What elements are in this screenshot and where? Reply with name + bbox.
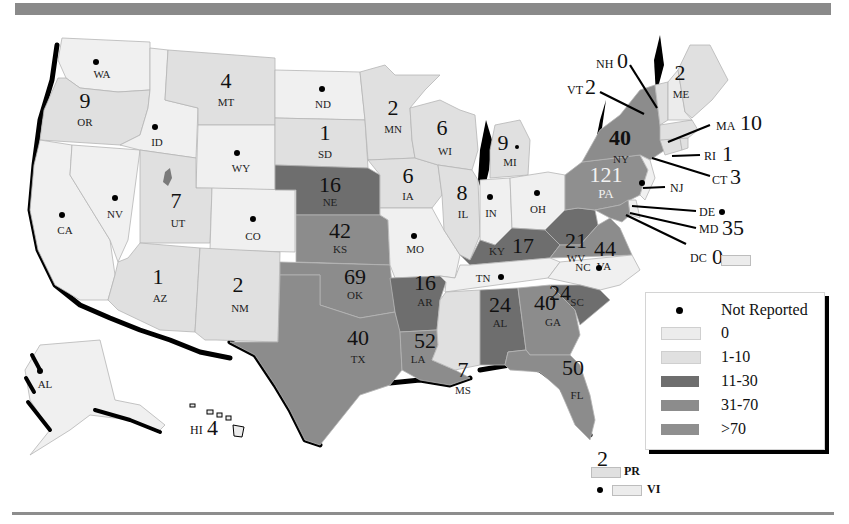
legend-swatch-zero (661, 327, 701, 340)
state-AK[interactable] (25, 340, 165, 455)
svg-text:1: 1 (153, 264, 164, 289)
legend-row-1-10: 1-10 (646, 346, 824, 368)
svg-text:40: 40 (347, 325, 369, 350)
svg-text:AZ: AZ (153, 292, 168, 304)
legend: Not Reported 0 1-10 11-30 31-70 >70 (645, 292, 825, 450)
svg-text:VT: VT (567, 83, 584, 97)
svg-text:16: 16 (414, 270, 436, 295)
svg-text:50: 50 (562, 355, 584, 380)
svg-text:NC: NC (575, 261, 590, 273)
svg-text:IA: IA (402, 190, 414, 202)
svg-text:42: 42 (329, 218, 351, 243)
vi-swatch[interactable] (612, 485, 642, 496)
svg-text:6: 6 (403, 163, 414, 188)
svg-text:OH: OH (530, 203, 546, 215)
legend-swatch-31-70 (661, 400, 699, 411)
svg-text:35: 35 (722, 215, 744, 240)
svg-text:CA: CA (57, 224, 72, 236)
state-ND[interactable] (275, 70, 365, 120)
svg-text:KS: KS (333, 243, 347, 255)
svg-text:121: 121 (590, 162, 623, 187)
legend-row-11-30: 11-30 (646, 370, 824, 392)
svg-text:TN: TN (476, 272, 491, 284)
svg-text:2: 2 (233, 272, 244, 297)
svg-text:69: 69 (344, 264, 366, 289)
legend-row-31-70: 31-70 (646, 394, 824, 416)
svg-text:WI: WI (438, 145, 452, 157)
dc-swatch (721, 255, 751, 266)
svg-text:7: 7 (171, 188, 182, 213)
legend-row-zero: 0 (646, 322, 824, 344)
svg-text:ID: ID (151, 136, 163, 148)
svg-text:1: 1 (320, 120, 331, 145)
svg-text:AR: AR (417, 296, 433, 308)
svg-text:HI: HI (190, 423, 203, 437)
svg-text:IL: IL (458, 208, 469, 220)
svg-text:RI: RI (704, 149, 716, 163)
svg-text:MS: MS (455, 384, 471, 396)
legend-row-gt70: >70 (646, 418, 824, 440)
svg-text:MI: MI (503, 156, 517, 168)
svg-text:OR: OR (77, 116, 93, 128)
svg-text:6: 6 (437, 115, 448, 140)
svg-text:2: 2 (585, 74, 596, 99)
not-reported-dot-icon (676, 307, 683, 314)
svg-text:AL: AL (38, 378, 53, 390)
svg-text:MA: MA (716, 119, 736, 133)
svg-text:DC: DC (690, 251, 707, 265)
svg-text:PA: PA (598, 186, 614, 201)
svg-text:UT: UT (171, 217, 186, 229)
svg-text:CO: CO (245, 230, 260, 242)
svg-text:MD: MD (699, 222, 719, 236)
svg-text:21: 21 (565, 228, 587, 253)
svg-text:1: 1 (722, 141, 733, 166)
svg-text:NH: NH (596, 57, 614, 71)
vi-not-reported-dot-icon (597, 487, 603, 493)
svg-text:NM: NM (231, 302, 249, 314)
svg-text:24: 24 (549, 280, 571, 305)
svg-text:NE: NE (323, 196, 338, 208)
svg-text:KY: KY (489, 245, 505, 257)
svg-text:2: 2 (675, 60, 686, 85)
svg-text:MT: MT (218, 96, 235, 108)
svg-text:SD: SD (318, 148, 332, 160)
svg-text:2: 2 (388, 95, 399, 120)
svg-text:7: 7 (458, 357, 469, 382)
svg-text:16: 16 (319, 172, 341, 197)
vi-label: VI (647, 482, 660, 497)
legend-swatch-gt70 (661, 424, 699, 435)
svg-text:WY: WY (232, 162, 250, 174)
state-ME[interactable] (678, 45, 728, 118)
svg-text:9: 9 (498, 130, 509, 155)
svg-text:AL: AL (493, 317, 508, 329)
svg-text:FL: FL (571, 389, 584, 401)
svg-text:24: 24 (489, 292, 511, 317)
svg-text:4: 4 (207, 415, 218, 440)
state-MI[interactable] (490, 120, 530, 178)
svg-text:ME: ME (673, 88, 690, 100)
state-WY[interactable] (196, 125, 275, 190)
legend-swatch-11-30 (661, 376, 699, 387)
pr-label: PR (624, 464, 640, 479)
bottom-divider-bar (12, 512, 834, 515)
pr-swatch[interactable] (591, 467, 621, 478)
svg-text:NV: NV (107, 208, 123, 220)
svg-text:MN: MN (384, 123, 402, 135)
svg-text:TX: TX (351, 353, 366, 365)
svg-text:3: 3 (730, 164, 741, 189)
svg-text:9: 9 (80, 88, 91, 113)
svg-text:IN: IN (485, 207, 497, 219)
svg-text:10: 10 (740, 110, 762, 135)
svg-text:ND: ND (315, 98, 331, 110)
svg-text:WA: WA (93, 68, 110, 80)
svg-text:8: 8 (457, 180, 468, 205)
svg-text:0: 0 (617, 48, 628, 73)
svg-text:SC: SC (570, 296, 583, 308)
svg-text:NJ: NJ (670, 181, 684, 195)
svg-text:CT: CT (712, 173, 728, 187)
svg-text:OK: OK (347, 289, 363, 301)
svg-text:GA: GA (545, 316, 561, 328)
svg-text:LA: LA (411, 353, 426, 365)
svg-text:52: 52 (414, 328, 436, 353)
legend-swatch-1-10 (661, 351, 701, 364)
